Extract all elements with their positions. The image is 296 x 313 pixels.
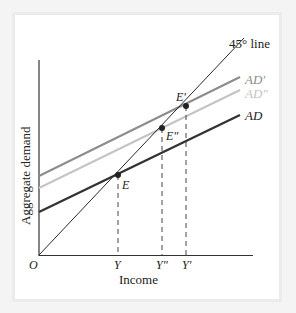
ad-prime-label: AD' (244, 72, 265, 87)
x-axis-label: Income (119, 272, 158, 287)
ad-line (39, 115, 240, 212)
ad-double-prime-label: AD" (244, 86, 268, 101)
equilibrium-point-e-double-prime (159, 125, 165, 131)
ad-prime-line (39, 77, 240, 176)
equilibrium-point-e (115, 172, 121, 178)
ad-label: AD (244, 108, 263, 123)
x-tick-y: Y (114, 258, 122, 272)
origin-label: O (29, 258, 38, 272)
e-prime-label: E' (175, 90, 186, 104)
e-label: E (121, 178, 130, 192)
ad-double-prime-line (39, 90, 240, 188)
line45-label: 45° line (229, 36, 270, 51)
e-double-prime-label: E" (165, 129, 179, 143)
forty-five-degree-line (39, 38, 244, 255)
keynesian-cross-diagram: 45° line AD' AD" AD E E" E' O Y Y" Y' In… (0, 0, 296, 313)
x-tick-y-prime: Y' (182, 258, 192, 272)
x-tick-y-double-prime: Y" (156, 258, 169, 272)
y-axis-label: Aggregate demand (18, 126, 33, 225)
